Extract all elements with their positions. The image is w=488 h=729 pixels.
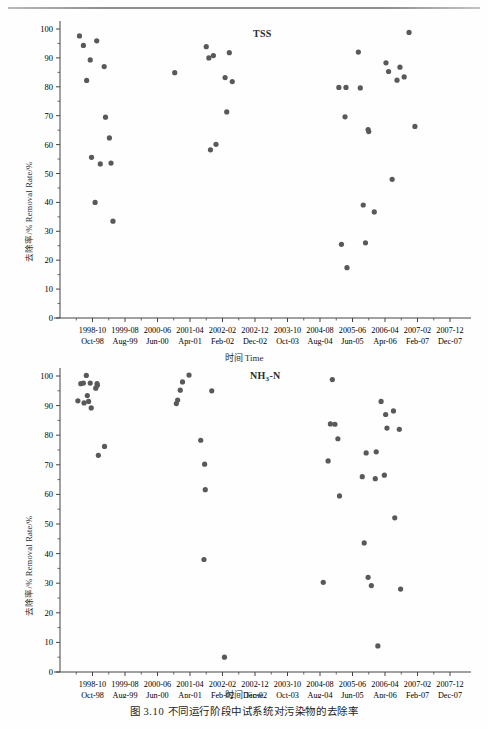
data-point — [358, 85, 363, 90]
data-point — [84, 78, 89, 83]
data-point — [98, 161, 103, 166]
svg-text:2006-04: 2006-04 — [371, 326, 398, 335]
data-point — [412, 124, 417, 129]
data-point — [366, 575, 371, 580]
data-point — [198, 438, 203, 443]
svg-text:2001-04: 2001-04 — [176, 326, 203, 335]
svg-text:Feb-07: Feb-07 — [406, 337, 429, 346]
data-point — [88, 57, 93, 62]
svg-text:50: 50 — [45, 169, 54, 179]
data-point — [103, 115, 108, 120]
svg-text:0: 0 — [49, 313, 53, 323]
data-point — [384, 425, 389, 430]
data-point — [383, 60, 388, 65]
data-point — [398, 587, 403, 592]
data-point — [204, 44, 209, 49]
data-point — [213, 142, 218, 147]
data-point — [222, 655, 227, 660]
data-point — [382, 473, 387, 478]
data-point — [332, 422, 337, 427]
svg-text:90: 90 — [45, 53, 54, 63]
data-point — [230, 79, 235, 84]
data-point — [94, 38, 99, 43]
data-point — [321, 580, 326, 585]
data-point — [96, 453, 101, 458]
svg-text:30: 30 — [45, 226, 54, 236]
svg-text:Jun-05: Jun-05 — [341, 337, 363, 346]
chart-nh3n-series-label: NH3-N — [250, 370, 281, 381]
svg-text:100: 100 — [40, 371, 53, 381]
data-point — [366, 129, 371, 134]
svg-text:Dec-07: Dec-07 — [438, 337, 462, 346]
svg-text:20: 20 — [45, 255, 54, 265]
svg-text:1999-08: 1999-08 — [111, 326, 138, 335]
page-header-rule — [8, 7, 480, 9]
chart-nh3n-x-axis-label: 时间 Time — [0, 688, 488, 701]
svg-text:50: 50 — [45, 519, 54, 529]
data-point — [211, 53, 216, 58]
svg-text:Apr-01: Apr-01 — [178, 337, 201, 346]
svg-text:Aug-04: Aug-04 — [307, 337, 332, 346]
data-point — [108, 160, 113, 165]
svg-text:100: 100 — [40, 24, 53, 34]
data-point — [343, 85, 348, 90]
data-point — [362, 540, 367, 545]
data-point — [223, 75, 228, 80]
data-point — [383, 412, 388, 417]
svg-text:60: 60 — [45, 140, 54, 150]
chart-tss-x-axis-label: 时间 Time — [0, 351, 488, 364]
chart-nh3n: 01020304050607080901001998-10Oct-981999-… — [0, 368, 488, 698]
data-point-group — [77, 30, 418, 270]
data-point — [386, 69, 391, 74]
svg-text:Oct-98: Oct-98 — [81, 337, 104, 346]
svg-text:40: 40 — [45, 549, 54, 559]
data-point — [339, 242, 344, 247]
svg-text:Feb-02: Feb-02 — [211, 337, 234, 346]
svg-text:80: 80 — [45, 82, 54, 92]
page-header-ghost-text — [170, 0, 350, 7]
data-point — [335, 436, 340, 441]
data-point — [202, 462, 207, 467]
data-point — [102, 444, 107, 449]
data-point — [344, 265, 349, 270]
data-point — [402, 74, 407, 79]
data-point — [209, 388, 214, 393]
data-point — [85, 393, 90, 398]
data-point — [356, 50, 361, 55]
data-point — [110, 219, 115, 224]
data-point — [86, 399, 91, 404]
chart-nh3n-y-axis-label: 去除率/% Removal Rate/% — [22, 516, 34, 616]
data-point — [392, 515, 397, 520]
svg-text:2000-06: 2000-06 — [144, 326, 171, 335]
svg-text:80: 80 — [45, 430, 54, 440]
svg-text:1998-10: 1998-10 — [79, 326, 106, 335]
data-point — [372, 209, 377, 214]
data-point — [379, 399, 384, 404]
data-point — [93, 200, 98, 205]
svg-text:Dec-02: Dec-02 — [243, 337, 267, 346]
data-point — [224, 109, 229, 114]
chart-tss: 01020304050607080901001998-10Oct-981999-… — [0, 14, 488, 364]
data-point — [330, 377, 335, 382]
data-point — [172, 70, 177, 75]
svg-text:Apr-06: Apr-06 — [373, 337, 396, 346]
svg-text:2002-02: 2002-02 — [209, 326, 236, 335]
chart-tss-plot: 01020304050607080901001998-10Oct-981999-… — [0, 14, 488, 364]
svg-text:2003-10: 2003-10 — [274, 326, 301, 335]
svg-text:2007-02: 2007-02 — [404, 326, 431, 335]
data-point — [364, 450, 369, 455]
data-point — [81, 381, 86, 386]
svg-text:Jun-00: Jun-00 — [146, 337, 168, 346]
data-point — [81, 400, 86, 405]
svg-text:10: 10 — [45, 637, 54, 647]
data-point — [75, 398, 80, 403]
data-point — [89, 155, 94, 160]
svg-text:60: 60 — [45, 489, 54, 499]
data-point — [88, 381, 93, 386]
data-point — [406, 30, 411, 35]
svg-text:70: 70 — [45, 460, 54, 470]
data-point — [360, 474, 365, 479]
data-point — [390, 177, 395, 182]
data-point — [180, 379, 185, 384]
data-point — [201, 557, 206, 562]
